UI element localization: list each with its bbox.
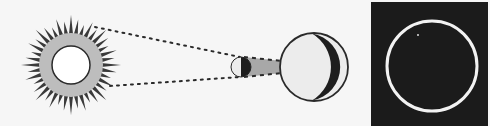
star-icon: [417, 34, 419, 36]
moon-icon: [231, 57, 251, 77]
earth-icon: [280, 33, 348, 101]
sun-icon: [21, 15, 121, 115]
eclipse-diagram: [0, 0, 490, 126]
eclipse-view-inset: [371, 2, 488, 126]
sun-core: [52, 46, 90, 84]
